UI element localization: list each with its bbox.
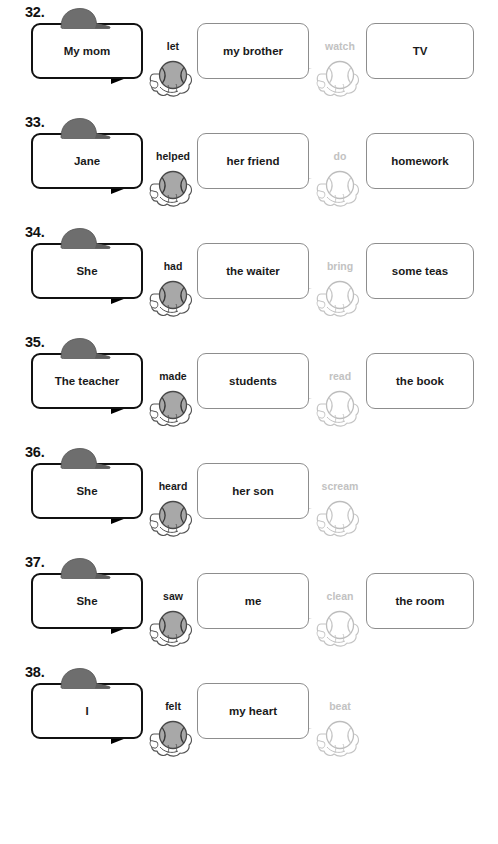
object-box-first[interactable]: my brother bbox=[197, 23, 309, 79]
verb-group-secondary: watch bbox=[313, 40, 367, 102]
baseball-in-glove-icon bbox=[148, 494, 198, 540]
subject-label: She bbox=[72, 485, 101, 498]
object-label-second: homework bbox=[387, 155, 453, 167]
object-box-first[interactable]: her son bbox=[197, 463, 309, 519]
object-box-first[interactable]: me bbox=[197, 573, 309, 629]
baseball-in-glove-icon bbox=[148, 384, 198, 430]
subject-label: The teacher bbox=[51, 375, 124, 388]
object-box-first[interactable]: students bbox=[197, 353, 309, 409]
row-number: 38. bbox=[25, 664, 45, 680]
sentence-row: 37.Shesawmecleanthe room bbox=[0, 550, 498, 660]
verb-label-secondary: do bbox=[334, 150, 347, 162]
row-number: 37. bbox=[25, 554, 45, 570]
subject-box[interactable]: I bbox=[31, 683, 143, 739]
object-label-second: the book bbox=[392, 375, 448, 387]
verb-group-primary: had bbox=[146, 260, 200, 322]
row-number: 36. bbox=[25, 444, 45, 460]
object-box-first[interactable]: her friend bbox=[197, 133, 309, 189]
sentence-row: 32.My momletmy brotherwatchTV bbox=[0, 0, 498, 110]
subject-box[interactable]: The teacher bbox=[31, 353, 143, 409]
baseball-in-glove-faded-icon bbox=[315, 384, 365, 430]
verb-label-primary: let bbox=[167, 40, 179, 52]
baseball-in-glove-icon bbox=[148, 604, 198, 650]
baseball-in-glove-faded-icon bbox=[315, 494, 365, 540]
subject-box[interactable]: My mom bbox=[31, 23, 143, 79]
verb-group-secondary: do bbox=[313, 150, 367, 212]
verb-group-primary: made bbox=[146, 370, 200, 432]
verb-label-secondary: clean bbox=[327, 590, 354, 602]
object-box-second[interactable]: the room bbox=[366, 573, 474, 629]
row-number: 34. bbox=[25, 224, 45, 240]
subject-box[interactable]: She bbox=[31, 573, 143, 629]
baseball-in-glove-icon bbox=[148, 164, 198, 210]
object-box-second[interactable]: the book bbox=[366, 353, 474, 409]
subject-label: My mom bbox=[60, 45, 115, 58]
baseball-in-glove-faded-icon bbox=[315, 274, 365, 320]
row-number: 33. bbox=[25, 114, 45, 130]
verb-group-secondary: read bbox=[313, 370, 367, 432]
subject-box[interactable]: She bbox=[31, 463, 143, 519]
subject-bubble-wrap: She bbox=[31, 243, 143, 299]
verb-label-secondary: beat bbox=[329, 700, 351, 712]
verb-group-primary: saw bbox=[146, 590, 200, 652]
sentence-row: 38.Ifeltmy heartbeat bbox=[0, 660, 498, 770]
object-box-first[interactable]: the waiter bbox=[197, 243, 309, 299]
row-number: 35. bbox=[25, 334, 45, 350]
object-label-first: my heart bbox=[225, 705, 281, 717]
object-box-second[interactable]: TV bbox=[366, 23, 474, 79]
verb-label-primary: made bbox=[159, 370, 186, 382]
verb-group-secondary: scream bbox=[313, 480, 367, 542]
sentence-row: 34.Shehadthe waiterbringsome teas bbox=[0, 220, 498, 330]
baseball-in-glove-icon bbox=[148, 714, 198, 760]
verb-label-secondary: watch bbox=[325, 40, 355, 52]
subject-label: She bbox=[72, 595, 101, 608]
verb-label-primary: had bbox=[164, 260, 183, 272]
verb-label-primary: felt bbox=[165, 700, 181, 712]
subject-bubble-wrap: The teacher bbox=[31, 353, 143, 409]
object-box-second[interactable]: homework bbox=[366, 133, 474, 189]
subject-box[interactable]: Jane bbox=[31, 133, 143, 189]
object-label-first: my brother bbox=[219, 45, 287, 57]
verb-group-primary: let bbox=[146, 40, 200, 102]
subject-bubble-wrap: Jane bbox=[31, 133, 143, 189]
subject-bubble-wrap: My mom bbox=[31, 23, 143, 79]
subject-bubble-wrap: She bbox=[31, 463, 143, 519]
verb-group-primary: felt bbox=[146, 700, 200, 762]
baseball-in-glove-faded-icon bbox=[315, 164, 365, 210]
baseball-in-glove-faded-icon bbox=[315, 714, 365, 760]
verb-group-secondary: bring bbox=[313, 260, 367, 322]
sentence-row: 35.The teachermadestudentsreadthe book bbox=[0, 330, 498, 440]
object-label-first: her son bbox=[228, 485, 278, 497]
baseball-in-glove-icon bbox=[148, 54, 198, 100]
verb-label-primary: heard bbox=[159, 480, 188, 492]
object-label-first: the waiter bbox=[222, 265, 284, 277]
object-label-second: the room bbox=[391, 595, 448, 607]
verb-group-secondary: beat bbox=[313, 700, 367, 762]
object-box-first[interactable]: my heart bbox=[197, 683, 309, 739]
sentence-row: 33.Janehelpedher frienddohomework bbox=[0, 110, 498, 220]
sentence-row: 36.Sheheardher sonscream bbox=[0, 440, 498, 550]
verb-label-secondary: read bbox=[329, 370, 351, 382]
object-box-second[interactable]: some teas bbox=[366, 243, 474, 299]
object-label-second: some teas bbox=[388, 265, 452, 277]
baseball-in-glove-faded-icon bbox=[315, 54, 365, 100]
verb-group-primary: heard bbox=[146, 480, 200, 542]
subject-label: I bbox=[81, 705, 92, 718]
verb-label-secondary: scream bbox=[322, 480, 359, 492]
object-label-second: TV bbox=[409, 45, 432, 57]
baseball-in-glove-faded-icon bbox=[315, 604, 365, 650]
object-label-first: her friend bbox=[222, 155, 283, 167]
baseball-in-glove-icon bbox=[148, 274, 198, 320]
subject-label: She bbox=[72, 265, 101, 278]
row-number: 32. bbox=[25, 4, 45, 20]
subject-bubble-wrap: I bbox=[31, 683, 143, 739]
verb-label-primary: helped bbox=[156, 150, 190, 162]
subject-bubble-wrap: She bbox=[31, 573, 143, 629]
subject-box[interactable]: She bbox=[31, 243, 143, 299]
verb-group-primary: helped bbox=[146, 150, 200, 212]
worksheet-sheet: 32.My momletmy brotherwatchTV33.Janehelp… bbox=[0, 0, 498, 844]
verb-label-secondary: bring bbox=[327, 260, 353, 272]
verb-group-secondary: clean bbox=[313, 590, 367, 652]
object-label-first: students bbox=[225, 375, 281, 387]
verb-label-primary: saw bbox=[163, 590, 183, 602]
